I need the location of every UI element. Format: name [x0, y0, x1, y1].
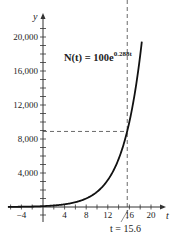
y-tick-label: 20,000	[13, 32, 38, 42]
x-tick-labels: −448121620	[17, 210, 156, 220]
x-tick-label: 16	[125, 210, 135, 220]
y-axis-label: y	[32, 11, 38, 22]
y-tick-label: 8,000	[18, 134, 39, 144]
y-tick-label: 16,000	[13, 66, 38, 76]
x-tick-label: 8	[84, 210, 89, 220]
x-tick-label: 12	[103, 210, 112, 220]
t-annotation: t = 15.6	[110, 223, 141, 234]
dashed-guides	[43, 0, 128, 222]
x-tick-label: −4	[17, 210, 27, 220]
x-tick-label: 20	[147, 210, 157, 220]
y-tick-label: 12,000	[13, 100, 38, 110]
x-axis-arrow-icon	[160, 205, 166, 210]
formula-exponent: 0.288t	[114, 50, 133, 58]
y-axis-arrow-icon	[41, 13, 46, 19]
y-tick-labels: 4,0008,00012,00016,00020,000	[13, 32, 38, 178]
formula-main: N(t) = 100e	[64, 52, 114, 64]
function-formula: N(t) = 100e0.288t	[64, 50, 132, 64]
x-tick-label: 4	[62, 210, 67, 220]
exponential-growth-chart: −448121620 4,0008,00012,00016,00020,000 …	[0, 0, 178, 242]
y-tick-label: 4,000	[18, 168, 39, 178]
x-axis-label: t	[166, 210, 169, 221]
